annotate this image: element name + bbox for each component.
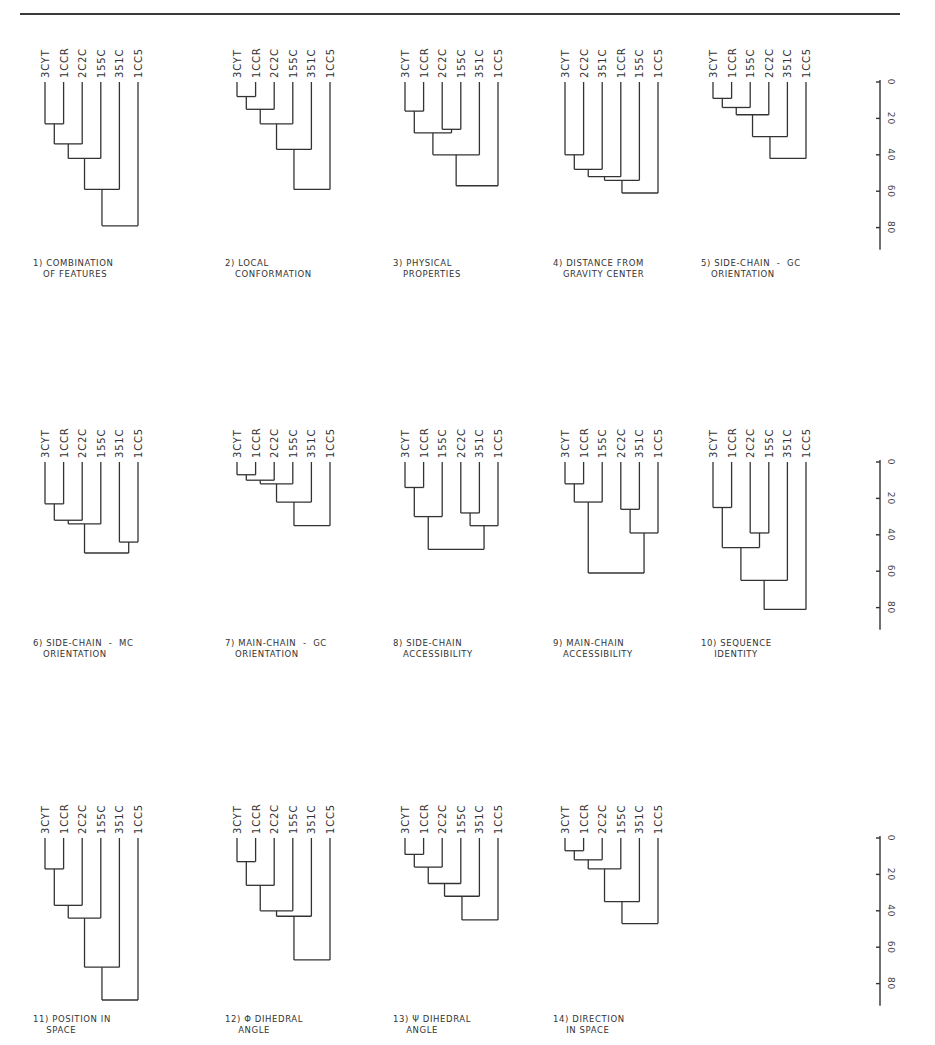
leaf-label: 351C xyxy=(306,805,317,834)
axis-tick-label: 20 xyxy=(886,112,896,125)
dendrogram-caption: 7) MAIN-CHAIN - GC ORIENTATION xyxy=(225,638,327,660)
leaf-label: 1CCR xyxy=(59,804,70,834)
dendrogram-6: 3CYT1CCR2C2C155C351C1CC5 xyxy=(40,428,144,553)
leaf-label: 1CCR xyxy=(251,48,262,78)
leaf-label: 351C xyxy=(474,49,485,78)
leaf-label: 155C xyxy=(745,49,756,78)
leaf-label: 351C xyxy=(474,429,485,458)
dendrogram-caption: 6) SIDE-CHAIN - MC ORIENTATION xyxy=(33,638,133,660)
leaf-label: 351C xyxy=(782,49,793,78)
leaf-label: 1CC5 xyxy=(653,48,664,78)
leaf-label: 3CYT xyxy=(560,805,571,834)
dendrogram-14: 3CYT1CCR2C2C155C351C1CC5 xyxy=(560,804,664,924)
axis-tick-label: 0 xyxy=(886,79,896,86)
axis-tick-label: 0 xyxy=(886,459,896,466)
leaf-label: 3CYT xyxy=(232,49,243,78)
dendrogram-caption: 8) SIDE-CHAIN ACCESSIBILITY xyxy=(393,638,473,660)
leaf-label: 3CYT xyxy=(232,805,243,834)
dendrogram-caption: 1) COMBINATION OF FEATURES xyxy=(33,258,113,280)
leaf-label: 1CCR xyxy=(579,804,590,834)
dendrogram-caption: 3) PHYSICAL PROPERTIES xyxy=(393,258,461,280)
leaf-label: 155C xyxy=(96,805,107,834)
distance-axis: 020406080 xyxy=(876,79,896,250)
leaf-label: 2C2C xyxy=(579,48,590,78)
leaf-label: 1CC5 xyxy=(325,428,336,458)
axis-tick-label: 60 xyxy=(886,565,896,578)
leaf-label: 351C xyxy=(782,429,793,458)
leaf-label: 2C2C xyxy=(77,48,88,78)
leaf-label: 351C xyxy=(634,805,645,834)
axis-tick-label: 80 xyxy=(886,221,896,234)
dendrogram-8: 3CYT1CCR155C2C2C351C1CC5 xyxy=(400,428,504,550)
leaf-label: 3CYT xyxy=(40,49,51,78)
leaf-label: 2C2C xyxy=(745,428,756,458)
dendrogram-3: 3CYT1CCR2C2C155C351C1CC5 xyxy=(400,48,504,186)
axis-tick-label: 20 xyxy=(886,868,896,881)
leaf-label: 1CC5 xyxy=(133,48,144,78)
leaf-label: 155C xyxy=(288,805,299,834)
leaf-label: 1CC5 xyxy=(653,804,664,834)
leaf-label: 2C2C xyxy=(77,804,88,834)
leaf-label: 2C2C xyxy=(616,428,627,458)
leaf-label: 2C2C xyxy=(269,48,280,78)
distance-axis: 020406080 xyxy=(876,459,896,630)
axis-tick-label: 60 xyxy=(886,941,896,954)
leaf-label: 3CYT xyxy=(400,429,411,458)
dendrogram-10: 3CYT1CCR2C2C155C351C1CC5 xyxy=(708,428,812,610)
leaf-label: 2C2C xyxy=(437,48,448,78)
leaf-label: 351C xyxy=(114,805,125,834)
leaf-label: 1CCR xyxy=(59,48,70,78)
leaf-label: 351C xyxy=(634,429,645,458)
leaf-label: 155C xyxy=(456,49,467,78)
leaf-label: 155C xyxy=(456,805,467,834)
axis-tick-label: 40 xyxy=(886,528,896,541)
leaf-label: 155C xyxy=(96,429,107,458)
leaf-label: 155C xyxy=(616,805,627,834)
leaf-label: 2C2C xyxy=(764,48,775,78)
leaf-label: 1CC5 xyxy=(325,48,336,78)
leaf-label: 155C xyxy=(437,429,448,458)
dendrogram-2: 3CYT1CCR2C2C155C351C1CC5 xyxy=(232,48,336,190)
dendrogram-caption: 14) DIRECTION IN SPACE xyxy=(553,1014,625,1036)
leaf-label: 155C xyxy=(96,49,107,78)
leaf-label: 2C2C xyxy=(77,428,88,458)
leaf-label: 1CC5 xyxy=(493,428,504,458)
leaf-label: 3CYT xyxy=(400,805,411,834)
leaf-label: 351C xyxy=(114,49,125,78)
leaf-label: 1CCR xyxy=(727,428,738,458)
leaf-label: 155C xyxy=(288,429,299,458)
leaf-label: 2C2C xyxy=(269,804,280,834)
leaf-label: 1CC5 xyxy=(493,804,504,834)
leaf-label: 155C xyxy=(764,429,775,458)
leaf-label: 1CC5 xyxy=(493,48,504,78)
dendrogram-1: 3CYT1CCR2C2C155C351C1CC5 xyxy=(40,48,144,226)
dendrogram-12: 3CYT1CCR2C2C155C351C1CC5 xyxy=(232,804,336,960)
dendrogram-caption: 13) Ψ DIHEDRAL ANGLE xyxy=(393,1014,471,1036)
dendrogram-13: 3CYT1CCR2C2C155C351C1CC5 xyxy=(400,804,504,920)
leaf-label: 1CCR xyxy=(419,48,430,78)
leaf-label: 351C xyxy=(597,49,608,78)
leaf-label: 1CCR xyxy=(251,804,262,834)
leaf-label: 1CCR xyxy=(419,428,430,458)
dendrogram-caption: 9) MAIN-CHAIN ACCESSIBILITY xyxy=(553,638,633,660)
dendrogram-caption: 5) SIDE-CHAIN - GC ORIENTATION xyxy=(701,258,801,280)
dendrogram-figure: 3CYT1CCR2C2C155C351C1CC53CYT1CCR2C2C155C… xyxy=(0,0,935,1045)
dendrogram-11: 3CYT1CCR2C2C155C351C1CC5 xyxy=(40,804,144,1000)
axis-tick-label: 60 xyxy=(886,185,896,198)
leaf-label: 3CYT xyxy=(560,49,571,78)
leaf-label: 351C xyxy=(306,49,317,78)
leaf-label: 351C xyxy=(474,805,485,834)
dendrogram-caption: 2) LOCAL CONFORMATION xyxy=(225,258,312,280)
axis-tick-label: 80 xyxy=(886,977,896,990)
leaf-label: 1CCR xyxy=(616,48,627,78)
leaf-label: 2C2C xyxy=(437,804,448,834)
leaf-label: 1CC5 xyxy=(801,428,812,458)
leaf-label: 1CC5 xyxy=(133,804,144,834)
leaf-label: 351C xyxy=(114,429,125,458)
leaf-label: 3CYT xyxy=(400,49,411,78)
leaf-label: 155C xyxy=(634,49,645,78)
axis-tick-label: 40 xyxy=(886,148,896,161)
leaf-label: 3CYT xyxy=(40,429,51,458)
leaf-label: 1CC5 xyxy=(325,804,336,834)
leaf-label: 1CCR xyxy=(59,428,70,458)
